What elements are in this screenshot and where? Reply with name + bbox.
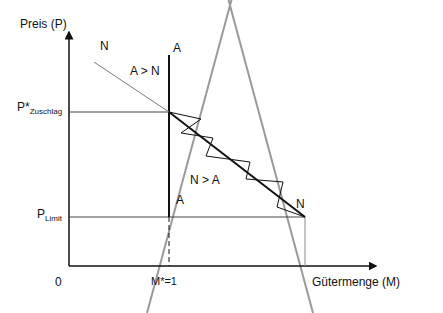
supply-label-bottom: A: [176, 194, 184, 206]
p-limit-label: PLimit: [37, 208, 62, 220]
supply-label-top: A: [173, 42, 181, 54]
demand-label-bottom: N: [296, 198, 305, 210]
x-axis-label: Gütermenge (M): [312, 276, 400, 288]
diagram-canvas: [0, 0, 443, 313]
excess-demand-label: N > A: [190, 174, 220, 186]
excess-supply-label: A > N: [130, 65, 160, 77]
demand-line-lower: [169, 112, 305, 217]
demand-label-top: N: [100, 40, 109, 52]
m-star-label: M*=1: [151, 276, 177, 287]
y-axis-label: Preis (P): [20, 18, 67, 30]
origin-label: 0: [55, 276, 62, 288]
p-star-label: P*Zuschlag: [17, 101, 62, 113]
